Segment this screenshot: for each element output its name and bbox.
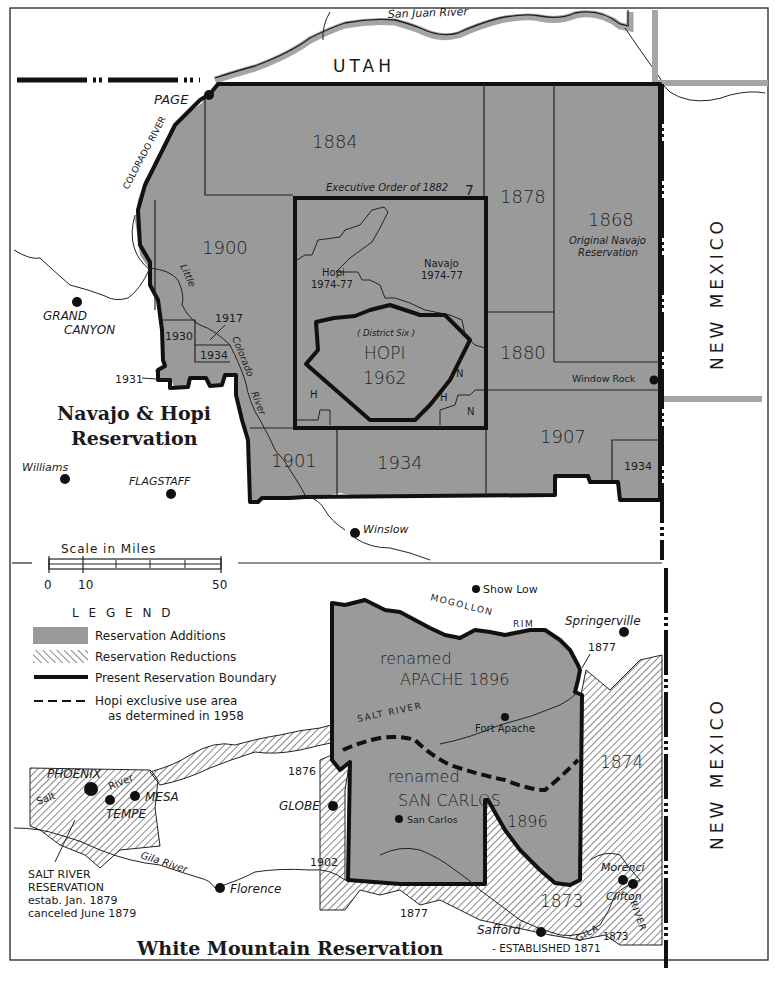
svg-text:FLAGSTAFF: FLAGSTAFF [129,475,191,488]
svg-text:Reservation Additions: Reservation Additions [95,629,226,643]
page-label: PAGE [154,92,189,107]
flagstaff-dot [166,489,176,499]
page-dot [204,90,214,100]
svg-text:as determined in 1958: as determined in 1958 [108,709,244,723]
svg-text:Gila River: Gila River [139,849,189,875]
svg-text:Fort Apache: Fort Apache [475,723,535,734]
svg-text:San Carlos: San Carlos [407,814,458,825]
svg-text:RIM: RIM [513,619,534,629]
svg-text:10: 10 [78,578,93,592]
svg-text:H: H [440,392,448,403]
new-mexico-label: NEW MEXICO [707,217,727,370]
svg-text:Williams: Williams [22,461,69,474]
san-juan-label: San Juan River [388,5,470,21]
svg-text:1917: 1917 [215,312,243,325]
svg-text:1934: 1934 [200,349,228,362]
svg-text:MOGOLLON: MOGOLLON [430,592,495,617]
hopi-1962-label: HOPI [364,343,405,363]
grand-canyon-dot [72,297,82,307]
navajo-hopi-title: Navajo & Hopi [57,402,211,424]
svg-text:Morenci: Morenci [601,861,645,874]
svg-text:Window Rock: Window Rock [572,373,636,384]
san-juan-river-band [215,12,630,80]
svg-text:1876: 1876 [288,765,316,778]
area-1884: 1884 [312,131,358,152]
apache-label: APACHE 1896 [400,670,509,689]
area-1907: 1907 [540,426,586,447]
svg-text:Winslow: Winslow [363,523,408,536]
white-mountain-title: White Mountain Reservation [136,937,444,959]
area-1868: 1868 [588,209,634,230]
legend-additions-swatch [33,627,88,644]
svg-text:Reservation: Reservation [578,247,638,258]
svg-text:1877: 1877 [400,907,428,920]
svg-text:Hopi: Hopi [322,267,345,278]
svg-text:1877: 1877 [588,641,616,654]
svg-text:GLOBE: GLOBE [279,799,320,813]
exec-order-label: Executive Order of 1882 [326,182,448,193]
svg-text:L E G E N D: L E G E N D [72,606,173,620]
svg-text:estab. Jan. 1879: estab. Jan. 1879 [28,894,117,907]
legend-reductions-swatch [33,650,88,663]
winslow-dot [350,528,360,538]
san-carlos-label: SAN CARLOS [398,791,501,810]
svg-text:Reservation Reductions: Reservation Reductions [95,650,236,664]
svg-text:1874: 1874 [600,752,643,772]
svg-text:SALT RIVER: SALT RIVER [28,868,91,881]
svg-text:RESERVATION: RESERVATION [28,881,104,894]
svg-text:Hopi exclusive use area: Hopi exclusive use area [95,694,237,708]
svg-text:1962: 1962 [363,368,406,388]
svg-text:7: 7 [465,182,474,198]
utah-label: UTAH [333,56,395,76]
svg-text:1930: 1930 [165,330,193,343]
svg-text:PHOENIX: PHOENIX [47,767,102,781]
svg-text:1896: 1896 [507,812,548,831]
svg-text:Safford: Safford [477,923,521,937]
svg-text:CANYON: CANYON [64,323,115,337]
svg-text:H: H [310,389,318,400]
svg-text:50: 50 [212,578,227,592]
svg-text:N: N [467,406,474,417]
svg-text:1931: 1931 [115,373,143,386]
svg-text:Navajo: Navajo [424,258,459,269]
svg-text:1902: 1902 [310,856,338,869]
svg-text:Scale in Miles: Scale in Miles [61,542,157,556]
svg-text:N: N [456,368,463,379]
svg-text:renamed: renamed [388,767,460,786]
williams-dot [60,474,70,484]
svg-text:MESA: MESA [145,790,179,804]
svg-text:1873: 1873 [603,931,628,942]
svg-text:TEMPE: TEMPE [106,807,147,821]
navajo-hopi-map: UTAH San Juan River PAGE COLORADO RIVER … [14,5,768,560]
white-mountain-map: Show Low MOGOLLON RIM Springerville 1877… [14,568,727,968]
svg-text:1873: 1873 [540,891,583,911]
svg-text:0: 0 [44,578,52,592]
area-1934: 1934 [377,452,423,473]
legend: L E G E N D Reservation Additions Reserv… [33,606,277,723]
svg-text:1934: 1934 [624,460,652,473]
svg-text:Springerville: Springerville [565,614,641,628]
svg-text:GRAND: GRAND [43,309,87,323]
area-1900: 1900 [202,237,248,258]
svg-text:canceled June 1879: canceled June 1879 [28,907,136,920]
svg-text:Show Low: Show Low [483,583,538,596]
area-1901: 1901 [271,450,317,471]
window-rock-dot [650,376,659,385]
svg-text:( District Six ): ( District Six ) [357,328,415,338]
svg-text:Florence: Florence [230,882,281,896]
scale-bar: Scale in Miles 0 10 50 [44,542,227,592]
area-1878: 1878 [500,186,546,207]
area-1880: 1880 [500,342,546,363]
reservation-map: UTAH San Juan River PAGE COLORADO RIVER … [0,0,776,985]
svg-text:Present Reservation Boundary: Present Reservation Boundary [95,671,277,685]
svg-text:Original Navajo: Original Navajo [569,235,646,246]
svg-text:NEW MEXICO: NEW MEXICO [707,697,727,850]
svg-text:Reservation: Reservation [71,427,198,449]
svg-text:- ESTABLISHED 1871: - ESTABLISHED 1871 [492,942,601,954]
svg-text:renamed: renamed [380,649,452,668]
svg-text:1974-77: 1974-77 [311,279,353,290]
apache-san-carlos-fill [330,600,582,885]
svg-text:1974-77: 1974-77 [421,270,463,281]
